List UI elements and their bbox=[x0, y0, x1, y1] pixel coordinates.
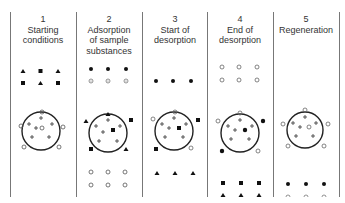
plus-icon bbox=[160, 116, 188, 139]
plus-icon bbox=[27, 116, 54, 139]
plus-icon bbox=[291, 115, 318, 138]
stage-4: 4 End of desorption bbox=[207, 12, 273, 197]
stage-4-graphic bbox=[207, 12, 273, 197]
stage-5-graphic bbox=[273, 12, 339, 197]
open-circle-icon bbox=[89, 170, 127, 187]
stage-2: 2 Adsorption of sample substances bbox=[76, 12, 142, 197]
triangle-icon bbox=[221, 193, 262, 197]
stage-2-graphic bbox=[76, 12, 142, 197]
filled-circle-icon bbox=[286, 182, 326, 186]
stage-3-graphic bbox=[142, 12, 208, 197]
filled-circle-icon bbox=[154, 79, 193, 83]
divider bbox=[339, 12, 340, 197]
square-icon bbox=[221, 181, 261, 185]
dotted-circle-center bbox=[90, 80, 126, 81]
plus-icon bbox=[226, 118, 254, 141]
open-circle-icon bbox=[220, 65, 259, 82]
filled-circle-icon bbox=[89, 67, 128, 71]
stage-5: 5 Regeneration bbox=[273, 12, 339, 197]
stage-3: 3 Start of desorption bbox=[142, 12, 208, 197]
stage-1: 1 Starting conditions bbox=[10, 12, 76, 197]
dotted-circle-icon bbox=[286, 195, 326, 197]
stage-1-graphic bbox=[10, 12, 76, 197]
plus-icon bbox=[94, 118, 122, 143]
triangle-icon bbox=[155, 171, 196, 175]
